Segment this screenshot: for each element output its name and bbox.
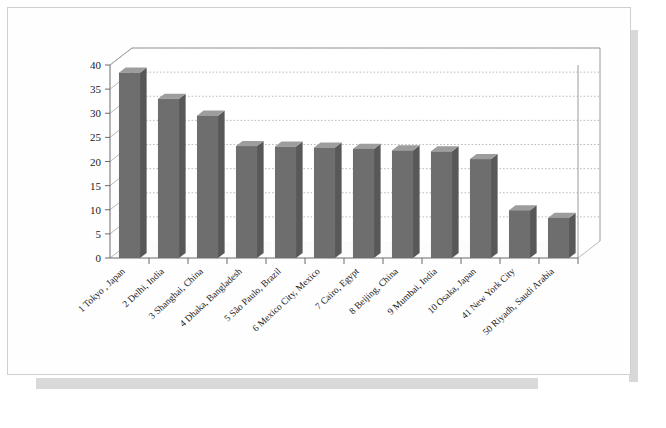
bar [314, 142, 342, 258]
y-axis-tick-label: 25 [90, 131, 102, 143]
bar [392, 145, 420, 258]
bar [275, 141, 303, 258]
bar [119, 68, 147, 258]
x-axis-category-label: 6 Mexico City, Mexico [251, 266, 322, 334]
bar [470, 154, 498, 258]
chart-container: 0510152025303540 1 Tokyo , Japan2 Delhi,… [0, 0, 666, 428]
y-axis-tick-label: 10 [90, 204, 102, 216]
y-axis-tick-label: 20 [90, 156, 102, 168]
y-axis-tick-label: 35 [90, 83, 102, 95]
bar [236, 141, 264, 258]
x-axis-category-label: 1 Tokyo , Japan [76, 266, 127, 314]
y-axis-tick-labels: 0510152025303540 [90, 59, 102, 264]
y-axis-tick-label: 0 [96, 252, 102, 264]
x-axis-category-label: 50 Riyadh, Saudi Arabia [481, 266, 557, 338]
bar [158, 94, 186, 258]
y-axis-tick-label: 40 [90, 59, 102, 71]
bar [197, 111, 225, 258]
bar [431, 146, 459, 258]
x-axis-category-labels: 1 Tokyo , Japan2 Delhi, India3 Shanghai,… [76, 266, 556, 338]
bar-chart: 0510152025303540 1 Tokyo , Japan2 Delhi,… [0, 0, 666, 428]
y-axis-tick-label: 5 [96, 228, 102, 240]
y-axis-tick-label: 15 [90, 180, 102, 192]
y-axis-tick-label: 30 [90, 107, 102, 119]
bar [353, 144, 381, 258]
bar [509, 205, 537, 258]
bar [548, 213, 576, 258]
